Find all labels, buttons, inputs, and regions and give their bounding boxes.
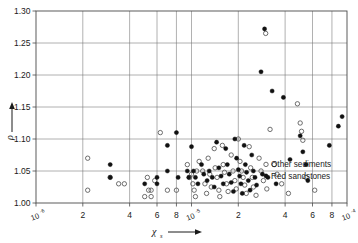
data-point-open [295, 102, 299, 106]
data-point-filled [165, 169, 169, 173]
data-point-open [185, 162, 189, 166]
data-point-filled [202, 172, 206, 176]
y-tick-label: 1.30 [14, 6, 31, 16]
data-point-filled [327, 143, 331, 147]
data-point-filled [187, 175, 191, 179]
data-point-filled [227, 172, 231, 176]
data-point-open [244, 191, 248, 195]
data-point-filled [210, 175, 214, 179]
data-point-open [261, 178, 265, 182]
data-point-filled [270, 89, 274, 93]
x-axis-title: χ s [151, 226, 202, 239]
data-point-open [247, 144, 251, 148]
data-point-open [142, 194, 146, 198]
data-point-filled [248, 188, 252, 192]
data-point-filled [229, 180, 233, 184]
data-point-filled [221, 182, 225, 186]
data-point-filled [191, 169, 195, 173]
data-point-open [265, 187, 269, 191]
data-point-filled [207, 169, 211, 173]
data-point-filled [176, 175, 180, 179]
data-point-open [226, 189, 230, 193]
data-point-open [221, 162, 225, 166]
data-point-open [229, 153, 233, 157]
data-point-open [145, 175, 149, 179]
data-point-filled [233, 137, 237, 141]
data-point-open [149, 194, 153, 198]
data-point-open [193, 194, 197, 198]
data-point-open [116, 182, 120, 186]
data-point-filled [250, 153, 254, 157]
y-tick-label: 1.05 [14, 166, 31, 176]
data-point-filled [240, 191, 244, 195]
data-point-open [220, 143, 224, 147]
data-point-filled [251, 169, 255, 173]
data-point-open [268, 127, 272, 131]
legend-marker-filled [264, 174, 268, 178]
data-point-filled [246, 179, 250, 183]
data-point-open [158, 130, 162, 134]
legend-label: Red sandstones [271, 172, 330, 181]
data-point-open [215, 175, 219, 179]
data-point-filled [155, 182, 159, 186]
data-point-open [206, 156, 210, 160]
data-point-filled [189, 145, 193, 149]
data-point-filled [231, 189, 235, 193]
data-point-open [299, 129, 303, 133]
data-point-filled [262, 27, 266, 31]
data-point-filled [205, 179, 209, 183]
data-point-filled [243, 163, 247, 167]
data-point-open [286, 191, 290, 195]
series-red-sandstones [108, 27, 344, 196]
x-tick-label-exponent: -5 [194, 207, 201, 214]
data-point-filled [212, 185, 216, 189]
data-point-open [212, 146, 216, 150]
data-point-filled [301, 150, 305, 154]
x-axis-title-symbol: χ [151, 226, 157, 237]
data-point-filled [235, 156, 239, 160]
data-point-filled [108, 175, 112, 179]
data-point-filled [253, 175, 257, 179]
data-point-filled [108, 163, 112, 167]
data-point-filled [254, 183, 258, 187]
data-point-filled [281, 95, 285, 99]
data-point-open [218, 194, 222, 198]
data-point-open [165, 188, 169, 192]
x-tick-label-decade: 10-6 [29, 207, 47, 222]
legend-label: Other sediments [271, 160, 331, 169]
data-point-filled [259, 70, 263, 74]
y-tick-label: 1.25 [14, 38, 31, 48]
y-tick-label: 1.10 [14, 134, 31, 144]
y-axis-title-text: ρ [4, 135, 15, 141]
data-point-open [313, 188, 317, 192]
y-tick-labels: 1.001.051.101.151.201.251.30 [14, 6, 31, 208]
x-tick-label-decade: 10-4 [340, 207, 358, 222]
y-tick-label: 1.00 [14, 198, 31, 208]
data-point-open [122, 182, 126, 186]
data-point-open [298, 121, 302, 125]
x-tick-label: 4 [127, 210, 132, 220]
data-point-filled [214, 140, 218, 144]
data-point-filled [236, 168, 240, 172]
data-point-open [217, 188, 221, 192]
chart-canvas: 1.001.051.101.151.201.251.30 10-6246810-… [0, 0, 358, 243]
data-point-filled [219, 174, 223, 178]
scatter-plot-figure: 1.001.051.101.151.201.251.30 10-6246810-… [0, 0, 358, 243]
x-tick-label-base: 10 [185, 211, 196, 222]
data-point-filled [340, 115, 344, 119]
data-point-filled [242, 143, 246, 147]
data-point-filled [155, 175, 159, 179]
y-tick-label: 1.20 [14, 70, 31, 80]
data-point-filled [274, 182, 278, 186]
chart-legend: Other sedimentsRed sandstones [264, 160, 331, 181]
data-point-filled [165, 143, 169, 147]
x-tick-label: 6 [310, 210, 315, 220]
x-tick-label-decade: 10-5 [184, 207, 202, 222]
data-point-open [257, 156, 261, 160]
data-point-filled [244, 170, 248, 174]
data-point-open [85, 156, 89, 160]
data-point-filled [199, 163, 203, 167]
x-tick-label-base: 10 [340, 211, 351, 222]
data-point-filled [196, 182, 200, 186]
x-tick-label-exponent: -6 [39, 207, 46, 214]
